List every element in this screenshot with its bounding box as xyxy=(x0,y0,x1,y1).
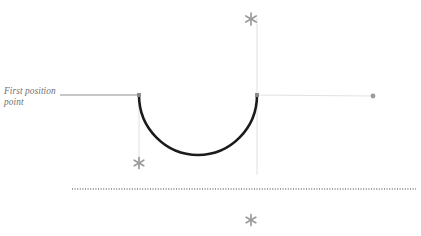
star-marker-top[interactable] xyxy=(246,13,256,25)
horizontal-guide-right-line xyxy=(257,95,373,96)
second-position-point-marker[interactable] xyxy=(255,93,259,97)
u-shaped-arc[interactable] xyxy=(139,95,257,155)
end-dot-marker[interactable] xyxy=(371,94,376,99)
first-position-point-marker[interactable] xyxy=(137,93,141,97)
diagram-canvas: First position point xyxy=(0,0,421,236)
figure-svg xyxy=(0,0,421,236)
star-marker-left[interactable] xyxy=(134,158,144,169)
first-position-point-label: First position point xyxy=(4,86,62,108)
star-marker-bottom[interactable] xyxy=(246,215,256,226)
